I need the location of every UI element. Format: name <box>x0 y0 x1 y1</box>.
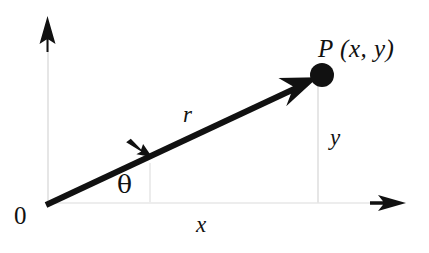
x-component-label: x <box>196 213 206 236</box>
y-component-label: y <box>330 126 340 149</box>
arrow-right-icon <box>370 195 406 211</box>
point-label: P (x, y) <box>318 36 394 61</box>
filled-circle-icon <box>310 63 334 87</box>
radius-vector-line <box>46 83 307 205</box>
origin-label: 0 <box>14 203 27 228</box>
angle-label: θ <box>117 172 132 197</box>
polar-coordinate-diagram: P (x, y) r θ x y 0 <box>0 0 429 253</box>
arrow-up-icon <box>40 16 56 52</box>
radius-label: r <box>183 103 192 126</box>
